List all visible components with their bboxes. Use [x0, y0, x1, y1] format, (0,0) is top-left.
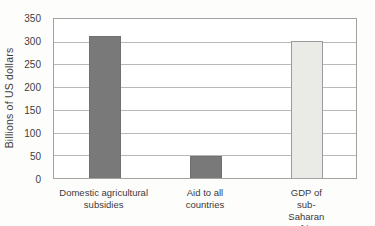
y-tick-label: 350 — [24, 13, 41, 24]
x-category-label: Domestic agricultural subsidies — [59, 187, 148, 211]
y-tick-label: 200 — [24, 82, 41, 93]
y-tick-label: 250 — [24, 59, 41, 70]
y-tick-label: 50 — [30, 151, 41, 162]
y-axis-ticks: 050100150200250300350 — [0, 18, 47, 179]
y-tick-label: 100 — [24, 128, 41, 139]
bar-chart-figure: Billions of US dollars 05010015020025030… — [0, 0, 375, 226]
x-axis-labels: Domestic agricultural subsidiesAid to al… — [53, 187, 357, 217]
bar-2 — [190, 156, 222, 178]
x-category-label: GDP of sub-Saharan Africa — [281, 187, 332, 226]
x-category-label: Aid to all countries — [186, 187, 225, 211]
y-tick-label: 300 — [24, 36, 41, 47]
plot-area — [53, 18, 357, 179]
y-tick-label: 0 — [35, 174, 41, 185]
bar-1 — [89, 36, 121, 178]
bar-3 — [291, 41, 323, 178]
y-tick-label: 150 — [24, 105, 41, 116]
